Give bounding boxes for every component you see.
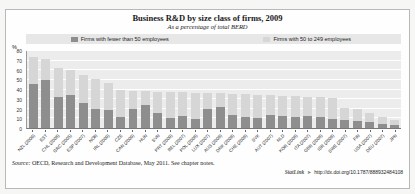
x-slot: CAN (2009) <box>126 130 139 158</box>
statlink-row: StatLink ➤ http://dx.doi.org/10.1787/888… <box>12 168 403 176</box>
bar-segment <box>29 84 38 128</box>
stacked-bar <box>129 91 138 128</box>
y-tick-label: 80 <box>16 48 22 54</box>
bar-segment <box>253 95 262 118</box>
bar-segment <box>91 109 100 128</box>
bar-segment <box>316 117 325 128</box>
stacked-bar <box>253 95 262 128</box>
bar-slot <box>264 51 276 128</box>
bar-segment <box>66 95 75 128</box>
bar-segment <box>166 118 175 128</box>
x-tick-mark <box>157 130 158 132</box>
bar-slot <box>239 51 251 128</box>
stacked-bar <box>241 94 250 128</box>
x-slot: ESP (2007) <box>76 130 89 158</box>
stacked-bar <box>203 93 212 128</box>
x-tick-label: HUN <box>138 133 148 143</box>
x-tick-mark <box>120 130 121 132</box>
bar-slot <box>289 51 301 128</box>
bar-segment <box>266 95 275 115</box>
bar-segment <box>66 70 75 95</box>
x-tick-label: JPN <box>389 133 399 143</box>
stacked-bar <box>178 92 187 128</box>
stacked-bar <box>278 96 287 128</box>
bar-segment <box>291 117 300 128</box>
stacked-bar <box>266 95 275 128</box>
bar-segment <box>129 91 138 109</box>
legend-label: Firms with fewer than 50 employees <box>81 36 169 42</box>
x-tick-mark <box>232 130 233 132</box>
source-text: OECD, Research and Development Database,… <box>30 160 214 166</box>
stacked-bar <box>153 92 162 128</box>
stacked-bar <box>104 83 113 128</box>
chart-title: Business R&D by size class of firms, 200… <box>12 13 403 23</box>
stacked-bar <box>365 113 374 128</box>
bar-segment <box>365 122 374 128</box>
bar-segment <box>278 116 287 128</box>
legend-label: Firms with 50 to 249 employees <box>273 36 351 42</box>
bar-segment <box>79 75 88 102</box>
plot-panel <box>26 51 401 129</box>
source-prefix: Source: <box>12 160 30 166</box>
x-tick-label: SVN <box>151 133 161 143</box>
bar-slot <box>339 51 351 128</box>
x-slot: DEU (2007) <box>376 130 389 158</box>
bar-segment <box>178 92 187 115</box>
stacked-bar <box>191 93 200 128</box>
stacked-bar <box>303 97 312 128</box>
stacked-bar <box>79 75 88 128</box>
stacked-bar <box>29 57 38 128</box>
bar-segment <box>303 116 312 128</box>
y-tick-label: 50 <box>16 77 22 83</box>
stacked-bar <box>353 109 362 128</box>
x-tick-mark <box>282 130 283 132</box>
x-tick-mark <box>370 130 371 132</box>
statlink-url-link[interactable]: http://dx.doi.org/10.1787/888932484108 <box>314 168 403 176</box>
y-tick-label: 0 <box>19 126 22 132</box>
stacked-bar <box>141 91 150 128</box>
bar-slot <box>202 51 214 128</box>
x-tick-mark <box>57 130 58 132</box>
stacked-bar <box>166 92 175 128</box>
bar-segment <box>104 110 113 128</box>
stacked-bar <box>54 68 63 128</box>
bar-slot <box>389 51 401 128</box>
bar-segment <box>116 90 125 117</box>
bar-slot <box>164 51 176 128</box>
stacked-bar <box>378 117 387 128</box>
bar-slot <box>102 51 114 128</box>
x-slot: JPN <box>389 130 402 158</box>
bar-segment <box>54 97 63 128</box>
x-slot: SWE (2007) <box>339 130 352 158</box>
x-tick-mark <box>145 130 146 132</box>
chart-subtitle: As a percentage of total BERD <box>12 23 403 31</box>
x-slot: CHE (2008) <box>239 130 252 158</box>
x-tick-mark <box>107 130 108 132</box>
bar-slot <box>301 51 313 128</box>
x-tick-mark <box>207 130 208 132</box>
bar-slot <box>251 51 263 128</box>
x-tick-mark <box>295 130 296 132</box>
bar-slot <box>351 51 363 128</box>
bar-segment <box>79 103 88 128</box>
stacked-bar <box>116 90 125 128</box>
bar-slot <box>376 51 388 128</box>
bar-segment <box>328 119 337 128</box>
x-tick-mark <box>320 130 321 132</box>
bar-segment <box>216 107 225 128</box>
x-tick-label: NZL (2009) <box>16 133 36 153</box>
bar-slot <box>77 51 89 128</box>
bar-slot <box>127 51 139 128</box>
bar-segment <box>141 105 150 128</box>
bar-slot <box>64 51 76 128</box>
bar-segment <box>228 94 237 115</box>
x-tick-mark <box>220 130 221 132</box>
x-tick-label: SVK <box>251 133 261 143</box>
bar-segment <box>266 115 275 128</box>
x-tick-mark <box>270 130 271 132</box>
bar-segment <box>116 117 125 128</box>
bar-segment <box>241 117 250 128</box>
stacked-bar <box>328 98 337 128</box>
bar-segment <box>191 93 200 119</box>
x-tick-mark <box>357 130 358 132</box>
